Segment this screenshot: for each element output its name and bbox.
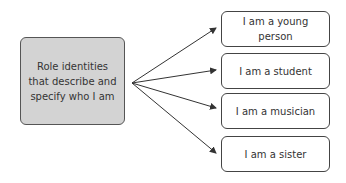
- target-node-student: I am a student: [221, 53, 330, 89]
- source-label: Role identities that describe and specif…: [27, 59, 118, 104]
- arrow-to-young-person: [132, 28, 216, 83]
- arrow-to-musician: [132, 83, 216, 108]
- arrow-to-student: [132, 70, 216, 83]
- target-node-young-person: I am a young person: [221, 11, 330, 47]
- source-node: Role identities that describe and specif…: [20, 37, 125, 125]
- target-label: I am a sister: [245, 147, 307, 162]
- target-label: I am a student: [239, 64, 312, 79]
- target-label: I am a musician: [236, 104, 315, 119]
- target-label: I am a young person: [228, 14, 323, 44]
- target-node-sister: I am a sister: [221, 136, 330, 172]
- arrow-to-sister: [132, 83, 216, 153]
- target-node-musician: I am a musician: [221, 93, 330, 129]
